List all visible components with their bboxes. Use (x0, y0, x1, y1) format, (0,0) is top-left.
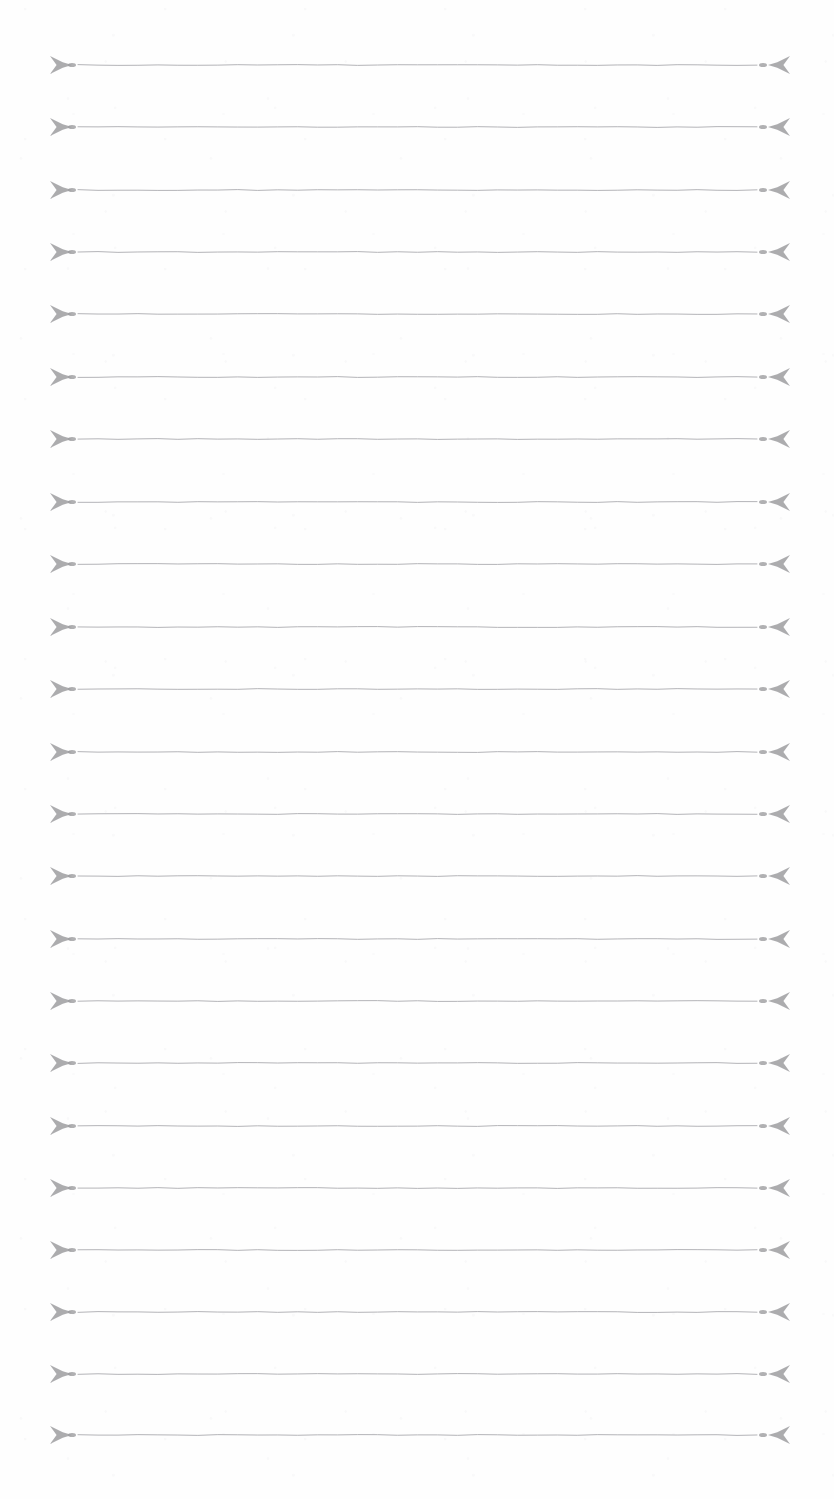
arrow-dart-left-icon (768, 56, 790, 74)
arrow-dart-right-icon (50, 56, 72, 74)
horizontal-rule (78, 127, 757, 128)
arrow-dart-left-icon (768, 992, 790, 1010)
arrow-dart-left-icon (768, 680, 790, 698)
horizontal-rule (78, 252, 757, 253)
ruled-divider-line (0, 1237, 834, 1263)
divider-graphic (0, 1050, 834, 1076)
arrow-dart-right-icon (50, 1054, 72, 1072)
divider-graphic (0, 926, 834, 952)
arrow-dart-right-icon (50, 1117, 72, 1135)
endpoint-dot-icon (759, 375, 767, 379)
divider-graphic (0, 114, 834, 140)
ruled-divider-line (0, 926, 834, 952)
horizontal-rule (78, 314, 757, 315)
divider-graphic (0, 739, 834, 765)
divider-graphic (0, 614, 834, 640)
horizontal-rule (78, 1126, 757, 1127)
endpoint-dot-icon (759, 1372, 767, 1376)
arrow-dart-left-icon (768, 1426, 790, 1444)
endpoint-dot-icon (759, 63, 767, 67)
arrow-dart-right-icon (50, 1365, 72, 1383)
endpoint-dot-icon (759, 1186, 767, 1190)
arrow-dart-left-icon (768, 118, 790, 136)
arrow-dart-right-icon (50, 1426, 72, 1444)
horizontal-rule (78, 1250, 757, 1251)
arrow-dart-right-icon (50, 992, 72, 1010)
ruled-divider-line (0, 1299, 834, 1325)
ruled-divider-line (0, 52, 834, 78)
divider-graphic (0, 1175, 834, 1201)
ruled-divider-line (0, 301, 834, 327)
arrow-dart-right-icon (50, 618, 72, 636)
horizontal-rule (78, 502, 757, 503)
endpoint-dot-icon (759, 1310, 767, 1314)
ruled-divider-line (0, 801, 834, 827)
divider-graphic (0, 1299, 834, 1325)
arrow-dart-left-icon (768, 930, 790, 948)
endpoint-dot-icon (759, 562, 767, 566)
endpoint-dot-icon (759, 750, 767, 754)
ruled-divider-line (0, 1113, 834, 1139)
arrow-dart-left-icon (768, 493, 790, 511)
divider-graphic (0, 551, 834, 577)
scanned-page (0, 0, 834, 1499)
arrow-dart-left-icon (768, 368, 790, 386)
divider-graphic (0, 426, 834, 452)
endpoint-dot-icon (759, 812, 767, 816)
horizontal-rule (78, 1188, 757, 1189)
arrow-dart-right-icon (50, 805, 72, 823)
divider-graphic (0, 239, 834, 265)
ruled-divider-line (0, 426, 834, 452)
endpoint-dot-icon (759, 125, 767, 129)
divider-graphic (0, 489, 834, 515)
arrow-dart-right-icon (50, 430, 72, 448)
arrow-dart-right-icon (50, 1303, 72, 1321)
endpoint-dot-icon (759, 1433, 767, 1437)
divider-graphic (0, 301, 834, 327)
arrow-dart-left-icon (768, 805, 790, 823)
horizontal-rule (78, 1001, 757, 1002)
ruled-divider-line (0, 114, 834, 140)
arrow-dart-left-icon (768, 1365, 790, 1383)
arrow-dart-right-icon (50, 493, 72, 511)
endpoint-dot-icon (759, 500, 767, 504)
endpoint-dot-icon (759, 625, 767, 629)
horizontal-rule (78, 190, 757, 191)
divider-graphic (0, 863, 834, 889)
arrow-dart-left-icon (768, 1303, 790, 1321)
horizontal-rule (78, 1312, 757, 1313)
horizontal-rule (78, 752, 757, 753)
arrow-dart-right-icon (50, 243, 72, 261)
arrow-dart-left-icon (768, 867, 790, 885)
horizontal-rule (78, 377, 757, 378)
divider-graphic (0, 52, 834, 78)
arrow-dart-left-icon (768, 430, 790, 448)
arrow-dart-right-icon (50, 743, 72, 761)
divider-graphic (0, 1361, 834, 1387)
arrow-dart-left-icon (768, 1241, 790, 1259)
ruled-divider-line (0, 239, 834, 265)
ruled-divider-line (0, 739, 834, 765)
ruled-divider-line (0, 364, 834, 390)
ruled-divider-line (0, 1175, 834, 1201)
ruled-divider-line (0, 676, 834, 702)
arrow-dart-right-icon (50, 555, 72, 573)
arrow-dart-left-icon (768, 743, 790, 761)
arrow-dart-right-icon (50, 181, 72, 199)
arrow-dart-left-icon (768, 1179, 790, 1197)
endpoint-dot-icon (759, 188, 767, 192)
ruled-divider-line (0, 614, 834, 640)
ruled-divider-line (0, 1050, 834, 1076)
arrow-dart-right-icon (50, 305, 72, 323)
endpoint-dot-icon (759, 999, 767, 1003)
endpoint-dot-icon (759, 1248, 767, 1252)
arrow-dart-left-icon (768, 1117, 790, 1135)
endpoint-dot-icon (759, 687, 767, 691)
arrow-dart-left-icon (768, 181, 790, 199)
ruled-divider-line (0, 1361, 834, 1387)
horizontal-rule (78, 1374, 757, 1375)
endpoint-dot-icon (759, 937, 767, 941)
horizontal-rule (78, 564, 757, 565)
horizontal-rule (78, 814, 757, 815)
arrow-dart-right-icon (50, 680, 72, 698)
